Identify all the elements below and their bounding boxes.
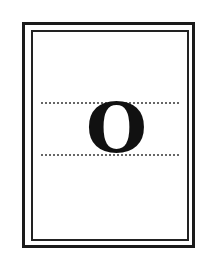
letter-glyph: O bbox=[86, 88, 140, 168]
